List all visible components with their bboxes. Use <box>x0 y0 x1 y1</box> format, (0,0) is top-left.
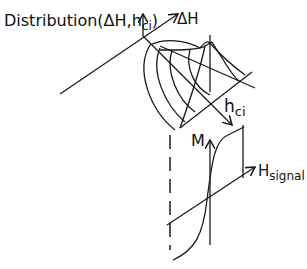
h-signal-axis <box>167 167 255 225</box>
h-signal-label: Hsignal <box>258 162 305 183</box>
hci-label: hci <box>224 96 246 119</box>
delta-h-label: ΔH <box>177 10 199 28</box>
distribution-label: Distribution(ΔH,hci) <box>4 11 158 33</box>
grid-line <box>180 72 252 128</box>
contour <box>189 50 210 95</box>
ridge <box>180 46 205 128</box>
contour-top <box>150 41 200 48</box>
contour <box>157 48 185 122</box>
magnetization-curve <box>173 127 244 260</box>
distribution-diagram: Distribution(ΔH,hci) ΔH hci M Hsignal <box>0 0 307 269</box>
m-axis-label: M <box>191 131 205 150</box>
